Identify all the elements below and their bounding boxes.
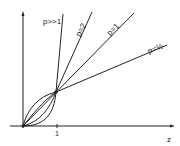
label-plarge: p>>1: [43, 17, 62, 26]
chart: p>>1 p=2 p=1 p=½ 1 z: [0, 0, 180, 146]
label-phalf: p=½: [146, 41, 164, 55]
line-p2: [56, 12, 92, 92]
x-axis-arrow-icon: [170, 125, 175, 128]
plot-area: p>>1 p=2 p=1 p=½ 1 z: [0, 0, 180, 146]
y-axis-arrow-icon: [22, 11, 25, 16]
label-p1: p=1: [105, 21, 121, 37]
x-axis-label: z: [167, 135, 171, 144]
origin-point: [22, 125, 25, 128]
x-tick-label-1: 1: [55, 130, 59, 137]
intersection-point: [54, 90, 58, 94]
